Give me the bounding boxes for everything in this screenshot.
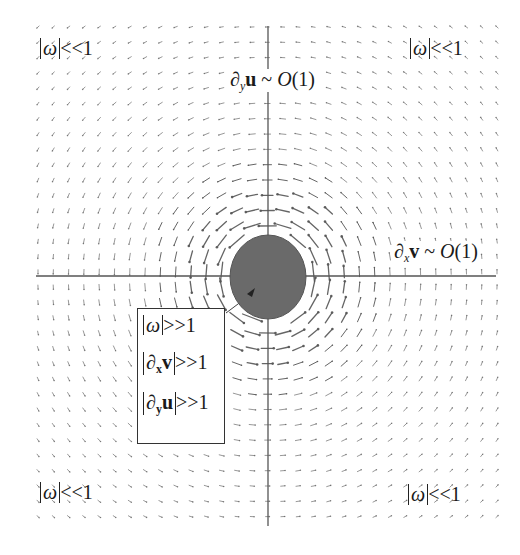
flow-arrow xyxy=(220,278,224,297)
flow-arrow xyxy=(309,312,319,323)
flow-arrow xyxy=(358,237,361,246)
flow-arrowhead xyxy=(327,263,330,266)
flow-arrowhead xyxy=(309,177,311,179)
flow-arrowhead xyxy=(208,471,210,473)
flow-arrowhead xyxy=(68,289,70,291)
flow-arrowhead xyxy=(285,439,287,441)
flow-arrowhead xyxy=(332,344,334,346)
flow-arrow xyxy=(129,346,132,351)
flow-arrowhead xyxy=(436,453,438,455)
flow-arrowhead xyxy=(418,162,420,164)
flow-arrowhead xyxy=(143,89,145,91)
flow-arrow xyxy=(357,222,361,230)
flow-arrowhead xyxy=(481,330,483,332)
flow-arrowhead xyxy=(404,268,406,270)
flow-arrowhead xyxy=(465,162,467,164)
flow-arrowhead xyxy=(158,229,160,231)
flow-arrowhead xyxy=(301,408,303,410)
flow-arrowhead xyxy=(130,305,132,307)
flow-arrowhead xyxy=(53,380,55,382)
flow-arrow xyxy=(204,133,209,135)
flow-arrowhead xyxy=(356,162,358,164)
flow-arrowhead xyxy=(391,453,393,455)
omega-symbol: ω xyxy=(413,37,427,59)
flow-arrowhead xyxy=(387,132,389,134)
flow-arrow xyxy=(373,330,376,337)
flow-arrowhead xyxy=(67,166,69,168)
flow-arrowhead xyxy=(131,441,133,443)
flow-arrowhead xyxy=(82,89,84,91)
flow-arrowhead xyxy=(482,453,484,455)
flow-arrowhead xyxy=(310,117,312,119)
flow-arrow xyxy=(249,425,255,426)
flow-arrowhead xyxy=(495,56,497,58)
flow-arrowhead xyxy=(308,206,311,209)
flow-arrow xyxy=(248,394,256,395)
flow-arrowhead xyxy=(421,330,423,332)
flow-arrowhead xyxy=(173,88,175,90)
flow-arrowhead xyxy=(83,289,85,291)
flow-arrowhead xyxy=(361,438,363,440)
flow-arrow xyxy=(217,207,226,213)
flow-arrowhead xyxy=(341,221,343,223)
flow-arrowhead xyxy=(188,166,190,168)
flow-arrowhead xyxy=(100,517,102,519)
flow-arrow xyxy=(325,313,332,323)
flow-arrowhead xyxy=(38,441,40,443)
core-conditions-box: ω>>1 ∂xv>>1 ∂yu>>1 xyxy=(137,308,225,444)
flow-arrowhead xyxy=(481,254,483,256)
flow-arrow xyxy=(420,330,422,335)
flow-arrow xyxy=(341,377,347,381)
flow-arrowhead xyxy=(300,439,302,441)
flow-arrowhead xyxy=(271,393,273,395)
flow-arrowhead xyxy=(173,27,175,29)
flow-arrow xyxy=(343,251,346,262)
flow-arrowhead xyxy=(158,213,160,215)
flow-arrowhead xyxy=(143,228,145,230)
flow-arrow xyxy=(341,345,347,351)
flow-arrow xyxy=(420,223,422,228)
flow-arrow xyxy=(294,362,303,365)
flow-arrowhead xyxy=(284,516,286,518)
flow-arrowhead xyxy=(127,104,129,106)
flow-arrow xyxy=(188,207,194,214)
flow-arrowhead xyxy=(452,407,454,409)
flow-arrowhead xyxy=(359,281,361,283)
flow-arrowhead xyxy=(496,254,498,256)
relation-text: >>1 xyxy=(163,314,196,336)
flow-arrowhead xyxy=(308,192,310,194)
flow-arrowhead xyxy=(177,471,179,473)
flow-arrow xyxy=(276,209,289,212)
flow-arrow xyxy=(359,282,360,292)
flow-arrow xyxy=(114,254,115,260)
flow-arrowhead xyxy=(346,407,348,409)
flow-arrow xyxy=(389,330,392,336)
flow-arrowhead xyxy=(207,501,209,503)
flow-arrow xyxy=(174,222,178,229)
flow-arrowhead xyxy=(240,379,242,381)
flow-arrowhead xyxy=(372,162,374,164)
flow-arrow xyxy=(203,207,210,214)
flow-arrow xyxy=(390,283,391,290)
flow-arrow xyxy=(203,148,209,151)
flow-arrowhead xyxy=(112,166,114,168)
flow-arrowhead xyxy=(326,56,328,58)
flow-arrowhead xyxy=(346,438,348,440)
flow-arrowhead xyxy=(246,195,249,198)
flow-arrowhead xyxy=(219,27,221,29)
flow-arrowhead xyxy=(52,119,54,121)
flow-arrowhead xyxy=(436,330,438,332)
flow-arrowhead xyxy=(467,469,469,471)
flow-arrowhead xyxy=(273,347,276,350)
flow-arrowhead xyxy=(98,274,100,276)
flow-arrowhead xyxy=(131,486,133,488)
flow-arrowhead xyxy=(495,102,497,104)
flow-arrowhead xyxy=(329,279,332,282)
flow-arrowhead xyxy=(391,438,393,440)
flow-arrow xyxy=(114,330,116,335)
flow-arrow xyxy=(389,238,391,245)
flow-arrowhead xyxy=(495,117,497,119)
flow-arrowhead xyxy=(115,441,117,443)
flow-arrowhead xyxy=(375,298,377,300)
flow-arrowhead xyxy=(280,26,282,28)
